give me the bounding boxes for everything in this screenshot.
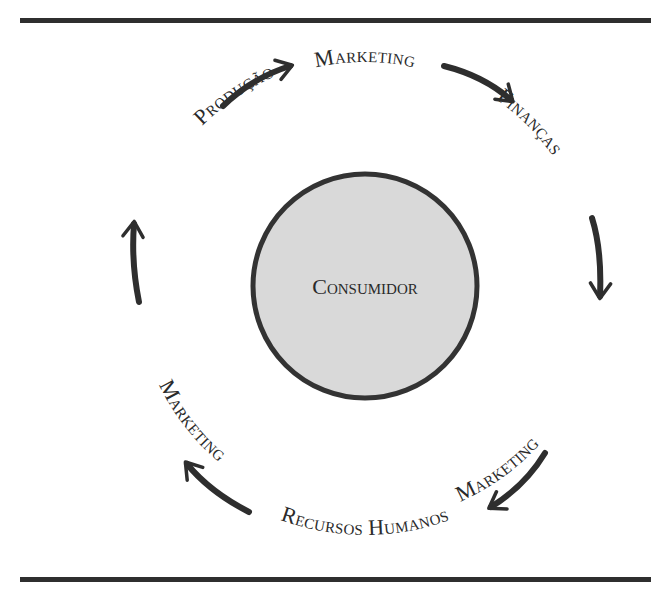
- node-marketing-top: Marketing: [312, 42, 418, 72]
- arrow-financas-to-marketing-icon: [592, 218, 600, 296]
- node-marketing-left: Marketing: [154, 375, 232, 466]
- cycle-diagram: Consumidor Marketing Finanças Marketing …: [0, 0, 651, 589]
- arrow-rh-to-marketing-icon: [187, 464, 249, 512]
- node-label: Marketing: [154, 375, 232, 466]
- node-label: Recursos Humanos: [278, 501, 451, 540]
- arrow-marketing-to-financas-icon: [444, 66, 511, 100]
- center-node: Consumidor: [253, 174, 477, 398]
- arrow-marketing-to-producao-icon: [133, 224, 139, 302]
- center-label: Consumidor: [312, 274, 418, 299]
- node-label: Marketing: [312, 42, 418, 72]
- node-label: Marketing: [452, 430, 544, 506]
- node-marketing-right: Marketing: [452, 430, 544, 506]
- node-recursos-humanos: Recursos Humanos: [278, 501, 451, 540]
